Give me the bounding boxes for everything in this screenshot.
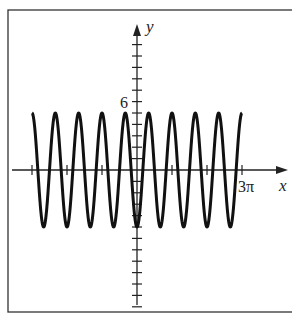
y-tick-label-6: 6 <box>120 94 128 111</box>
axes <box>12 24 288 307</box>
chart-canvas: y x 3π 6 <box>0 0 292 324</box>
x-axis-arrow-icon <box>276 166 288 174</box>
x-tick-label-3pi: 3π <box>238 178 254 195</box>
y-axis-arrow-icon <box>133 24 141 36</box>
x-axis-label: x <box>278 176 287 195</box>
y-axis-label: y <box>144 17 154 36</box>
